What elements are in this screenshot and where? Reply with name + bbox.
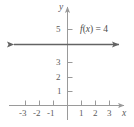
function-graph-figure: 5 3 2 1 -3 -2 -1 1 2 3 y x f(x) = 4 <box>0 0 134 127</box>
y-axis-label: y <box>59 3 63 13</box>
x-axis <box>9 101 124 106</box>
x-tick-label-2: 2 <box>93 109 98 118</box>
y-tick-label-2: 2 <box>56 73 61 82</box>
y-tick-label-3: 3 <box>56 58 61 67</box>
x-tick-label-3: 3 <box>107 109 112 118</box>
y-axis <box>68 7 73 120</box>
x-tick-label--2: -2 <box>33 109 41 118</box>
function-annotation: f(x) = 4 <box>80 25 108 35</box>
x-axis-label: x <box>122 109 126 119</box>
y-tick-label-5: 5 <box>56 25 61 34</box>
x-tick-label--1: -1 <box>47 109 55 118</box>
x-tick-label--3: -3 <box>19 109 27 118</box>
function-annotation-equals: = <box>93 24 103 34</box>
y-axis-ticks <box>68 30 73 92</box>
x-tick-label-1: 1 <box>79 109 84 118</box>
y-tick-label-1: 1 <box>57 87 62 96</box>
function-annotation-value: 4 <box>103 24 108 34</box>
